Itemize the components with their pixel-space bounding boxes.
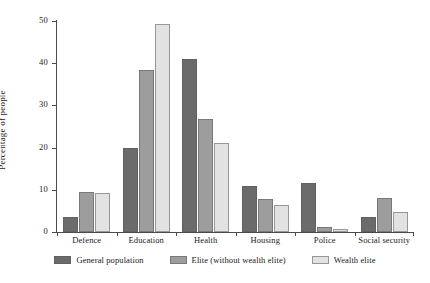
bar[interactable] bbox=[123, 148, 138, 232]
bar[interactable] bbox=[258, 199, 273, 232]
chart-legend: General populationElite (without wealth … bbox=[0, 255, 430, 265]
bar[interactable] bbox=[242, 186, 257, 232]
bar-group bbox=[57, 21, 117, 232]
bar-group bbox=[295, 21, 355, 232]
bar[interactable] bbox=[182, 59, 197, 232]
legend-swatch bbox=[54, 256, 71, 264]
bar[interactable] bbox=[317, 227, 332, 232]
bar[interactable] bbox=[377, 198, 392, 232]
x-axis-label: Education bbox=[117, 235, 177, 245]
legend-label: Elite (without wealth elite) bbox=[192, 255, 286, 265]
bar[interactable] bbox=[393, 212, 408, 232]
bar[interactable] bbox=[139, 70, 154, 232]
bar-group bbox=[355, 21, 415, 232]
bar[interactable] bbox=[79, 192, 94, 232]
bar-group bbox=[176, 21, 236, 232]
x-axis-label: Police bbox=[295, 235, 355, 245]
y-axis-tick-label: 0 bbox=[44, 226, 48, 236]
bar[interactable] bbox=[274, 205, 289, 232]
x-axis-label: Health bbox=[176, 235, 236, 245]
x-axis-label: Defence bbox=[57, 235, 117, 245]
x-axis-labels: DefenceEducationHealthHousingPoliceSocia… bbox=[57, 235, 414, 245]
y-axis-tick-mark bbox=[52, 148, 56, 149]
y-axis-tick-label: 40 bbox=[39, 57, 48, 67]
bar[interactable] bbox=[95, 193, 110, 232]
legend-item[interactable]: Wealth elite bbox=[312, 255, 376, 265]
bar[interactable] bbox=[361, 217, 376, 232]
bar[interactable] bbox=[63, 217, 78, 232]
legend-label: General population bbox=[76, 255, 143, 265]
bar[interactable] bbox=[214, 143, 229, 232]
y-axis-tick-mark bbox=[52, 21, 56, 22]
bar[interactable] bbox=[155, 24, 170, 232]
bar-group bbox=[117, 21, 177, 232]
y-axis-tick-label: 30 bbox=[39, 99, 48, 109]
x-axis-label: Social security bbox=[355, 235, 415, 245]
y-axis-tick-mark bbox=[52, 63, 56, 64]
bar[interactable] bbox=[333, 229, 348, 232]
x-axis-label: Housing bbox=[236, 235, 296, 245]
y-axis-tick-label: 10 bbox=[39, 184, 48, 194]
y-axis-tick-mark bbox=[52, 232, 56, 233]
y-axis-tick-label: 20 bbox=[39, 142, 48, 152]
y-axis-title: Percentage of people bbox=[0, 90, 7, 169]
legend-label: Wealth elite bbox=[334, 255, 376, 265]
bar[interactable] bbox=[198, 119, 213, 232]
y-axis-tick-mark bbox=[52, 105, 56, 106]
bar-group bbox=[236, 21, 296, 232]
legend-item[interactable]: Elite (without wealth elite) bbox=[170, 255, 286, 265]
legend-swatch bbox=[312, 256, 329, 264]
bar-chart: Percentage of people 01020304050 Defence… bbox=[0, 0, 430, 283]
y-axis-tick-label: 50 bbox=[39, 15, 48, 25]
bar-groups bbox=[57, 21, 414, 232]
y-axis-tick-mark bbox=[52, 190, 56, 191]
legend-swatch bbox=[170, 256, 187, 264]
legend-item[interactable]: General population bbox=[54, 255, 143, 265]
bar[interactable] bbox=[301, 183, 316, 232]
